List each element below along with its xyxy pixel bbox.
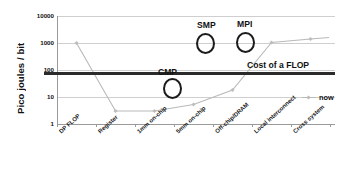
y-tick-1: 1	[26, 121, 54, 127]
callout-circle-smp	[196, 33, 215, 54]
cost-of-flop-line	[44, 72, 335, 75]
callout-label-cmp: CMP	[158, 67, 177, 77]
chart-root: Pico joules / bit 10000 1000 100 10 1	[0, 0, 345, 183]
x-axis-line	[57, 124, 335, 125]
legend-now: now	[302, 93, 334, 102]
callout-label-smp: SMP	[197, 20, 216, 30]
series-line-now	[57, 16, 335, 124]
y-tick-1000: 1000	[26, 40, 54, 46]
y-tick-10000: 10000	[26, 13, 54, 19]
callout-circle-cmp	[163, 78, 182, 99]
y-tick-10: 10	[26, 94, 54, 100]
y-axis-tick-labels: 10000 1000 100 10 1	[26, 16, 54, 124]
legend-swatch-now	[302, 97, 316, 98]
callout-circle-mpi	[236, 32, 255, 53]
legend-label-now: now	[319, 93, 334, 102]
cost-of-flop-label: Cost of a FLOP	[247, 60, 309, 70]
callout-label-mpi: MPI	[237, 19, 252, 29]
